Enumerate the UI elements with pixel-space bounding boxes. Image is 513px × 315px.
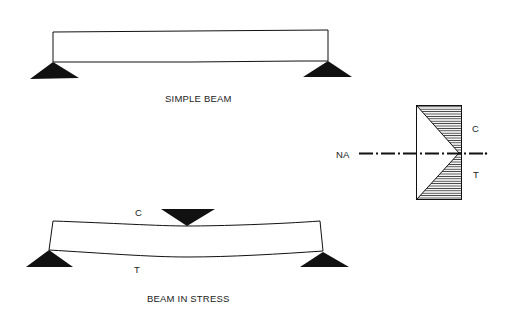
tension-bottom-label: T: [134, 264, 140, 275]
simple-beam-body: [53, 30, 328, 62]
left-support-icon: [26, 250, 73, 267]
load-arrow-icon: [161, 209, 215, 226]
compression-label: C: [472, 123, 479, 134]
neutral-axis-label: NA: [336, 149, 350, 160]
right-support-icon: [300, 252, 349, 267]
beam-in-stress: C T BEAM IN STRESS: [26, 207, 349, 304]
beam-in-stress-caption: BEAM IN STRESS: [147, 293, 230, 304]
left-support-icon: [30, 62, 79, 79]
right-support-icon: [303, 61, 352, 77]
tension-label: T: [473, 169, 479, 180]
beam-diagram: SIMPLE BEAM NA C T C T BEAM IN STRESS: [0, 0, 513, 315]
compression-top-label: C: [135, 207, 142, 218]
simple-beam-caption: SIMPLE BEAM: [165, 93, 232, 104]
deflected-beam-body: [49, 221, 323, 257]
stress-distribution: NA C T: [336, 106, 487, 200]
simple-beam: SIMPLE BEAM: [30, 30, 352, 104]
